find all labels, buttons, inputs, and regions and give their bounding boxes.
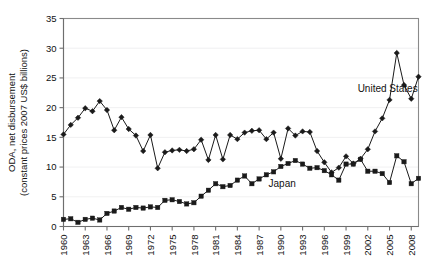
x-tick-label-1969: 1969 [123,235,134,256]
data-point-marker [148,205,152,209]
data-point-marker [177,147,182,152]
x-tick-label-1960: 1960 [58,235,69,256]
series-united-states [61,50,421,175]
data-point-marker [155,205,159,209]
data-point-marker [61,217,65,221]
data-point-marker [322,168,326,172]
data-point-marker [206,188,210,192]
y-tick-labels: 05101520253035 [46,13,57,232]
y-tick-label-5: 5 [51,191,56,202]
data-point-marker [170,198,174,202]
data-point-marker [329,173,333,177]
data-point-marker [416,74,421,79]
x-tick-label-1963: 1963 [80,235,91,256]
x-tick-label-1987: 1987 [254,235,265,256]
data-point-marker [351,162,355,166]
y-tick-label-35: 35 [46,13,57,24]
data-point-marker [387,97,392,102]
data-point-marker [315,165,319,169]
data-point-marker [279,164,283,168]
x-tick-label-1966: 1966 [102,235,113,256]
data-point-marker [242,174,246,178]
y-tick-label-10: 10 [46,161,57,172]
data-point-marker [366,169,370,173]
x-tick-label-2008: 2008 [406,235,417,256]
data-point-marker [141,206,145,210]
y-tick-label-25: 25 [46,72,57,83]
data-point-marker [155,166,160,171]
chart-figure: 05101520253035 1960196319661969197219751… [0,0,435,267]
data-point-marker [105,211,109,215]
y-axis-title: ODA, net disbursement(constant prices 20… [6,49,29,196]
series-line-japan [64,156,419,223]
data-point-marker [380,116,385,121]
x-tick-label-1972: 1972 [145,235,156,256]
data-point-marker [213,182,217,186]
data-point-marker [227,132,232,137]
data-point-marker [162,150,167,155]
y-axis-title-line-1: ODA, net disbursement [6,73,17,172]
data-point-marker [221,184,225,188]
data-point-marker [293,158,297,162]
data-point-marker [373,169,377,173]
data-point-marker [372,129,377,134]
data-point-marker [206,157,211,162]
y-tick-label-20: 20 [46,102,57,113]
x-tick-label-1975: 1975 [167,235,178,256]
series-annotation-japan: Japan [269,178,296,189]
x-tick-label-1996: 1996 [319,235,330,256]
data-point-marker [213,132,218,137]
data-point-marker [337,178,341,182]
data-point-marker [235,178,239,182]
data-point-marker [257,177,261,181]
data-point-marker [300,162,304,166]
data-point-marker [76,220,80,224]
data-point-marker [119,205,123,209]
data-point-marker [308,166,312,170]
series-markers [61,154,420,225]
data-point-marker [344,162,348,166]
x-tick-label-1993: 1993 [297,235,308,256]
x-tick-label-1981: 1981 [210,235,221,256]
series-japan [61,154,420,225]
data-point-marker [177,199,181,203]
data-point-marker [271,170,275,174]
data-point-marker [98,218,102,222]
data-point-marker [358,157,362,161]
data-point-marker [90,216,94,220]
data-point-marker [112,128,117,133]
data-point-marker [127,207,131,211]
data-point-marker [228,183,232,187]
x-tick-label-1999: 1999 [341,235,352,256]
y-axis-title-line-2: (constant prices 2007 US$ billions) [18,49,29,196]
data-point-marker [69,217,73,221]
data-point-marker [184,202,188,206]
data-point-marker [249,128,254,133]
y-tick-label-0: 0 [51,221,56,232]
data-point-marker [148,132,153,137]
y-tick-label-15: 15 [46,132,57,143]
data-point-marker [286,161,290,165]
data-point-marker [140,148,145,153]
series-annotations: United StatesJapan [269,83,418,189]
axes-layer [60,19,419,231]
data-point-marker [220,157,225,162]
series-markers [61,50,421,175]
data-point-marker [314,148,319,153]
data-point-marker [119,114,124,119]
data-point-marker [169,148,174,153]
chart-canvas: 05101520253035 1960196319661969197219751… [0,0,435,267]
gridlines-layer [64,19,419,197]
data-point-marker [395,154,399,158]
data-point-marker [83,217,87,221]
data-point-marker [394,50,399,55]
data-point-marker [278,156,283,161]
data-point-marker [264,173,268,177]
data-point-marker [112,209,116,213]
data-point-marker [409,96,414,101]
data-point-marker [336,165,341,170]
data-point-marker [416,176,420,180]
data-point-marker [184,148,189,153]
x-tick-label-1990: 1990 [275,235,286,256]
series-line-united-states [64,53,419,172]
